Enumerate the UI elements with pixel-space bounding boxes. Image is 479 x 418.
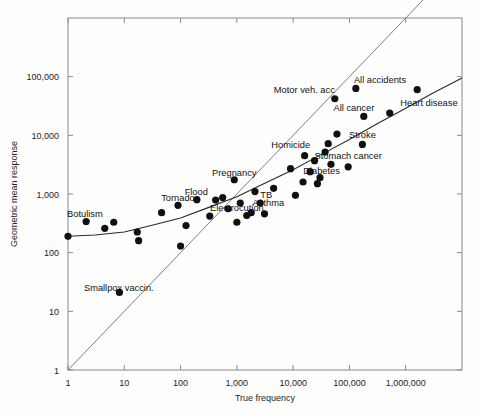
y-tick-label: 100,000 [26,72,59,82]
data-point [135,237,142,244]
x-tick-label: 100,000 [333,378,366,388]
data-point [331,95,338,102]
point-annotation: Diabetes [303,166,340,176]
data-point [359,141,366,148]
data-point [177,242,184,249]
data-points [64,85,420,296]
plot-svg: BotulismSmallpox vaccin.TornadoFloodPreg… [0,0,479,418]
x-tick-label: 100 [173,378,188,388]
point-annotation: All cancer [333,103,374,113]
data-point [360,113,367,120]
data-point [219,194,226,201]
y-tick-label: 10 [49,307,59,317]
x-tick-label: 1,000,000 [386,378,426,388]
data-point [287,165,294,172]
point-annotation: All accidents [354,75,407,85]
point-annotation: Flood [185,187,208,197]
data-point [352,85,359,92]
x-tick-label: 10 [119,378,129,388]
y-tick-labels: 1101001,00010,000100,000 [26,72,59,375]
point-annotation: Heart disease [400,98,457,108]
x-tick-label: 1 [65,378,70,388]
data-point [158,209,165,216]
point-annotation: Homicide [271,140,310,150]
lethality-judgment-scatter-figure: BotulismSmallpox vaccin.TornadoFloodPreg… [0,0,479,418]
data-point [345,163,352,170]
y-tick-label: 1,000 [36,190,59,200]
y-tick-label: 10,000 [31,131,59,141]
y-tick-label: 100 [44,248,59,258]
data-point [233,219,240,226]
point-annotation: Stomach cancer [315,151,382,161]
data-point [206,213,213,220]
data-point [414,86,421,93]
data-point [134,228,141,235]
x-tick-labels: 1101001,00010,000100,0001,000,000 [65,378,425,388]
point-annotation: Pregnancy [212,168,257,178]
point-annotation: Botulism [67,209,103,219]
data-point [101,225,108,232]
data-point [251,188,258,195]
data-point [325,140,332,147]
identity-line [68,0,462,370]
x-axis-title: True frequency [235,393,296,403]
point-annotation: Motor veh. acc [274,85,335,95]
data-point [333,130,340,137]
data-point [110,219,117,226]
point-annotation: Stroke [349,130,376,140]
point-annotation: Smallpox vaccin. [84,283,154,293]
data-point [182,222,189,229]
data-point [299,178,306,185]
data-point [301,152,308,159]
y-tick-label: 1 [54,366,59,376]
x-tick-label: 1,000 [226,378,249,388]
y-axis-title: Geometric mean response [9,141,19,247]
reference-lines [68,0,462,370]
x-tick-label: 10,000 [279,378,307,388]
data-point [64,233,71,240]
point-annotation: TB [260,190,272,200]
data-point [292,192,299,199]
data-point [386,109,393,116]
